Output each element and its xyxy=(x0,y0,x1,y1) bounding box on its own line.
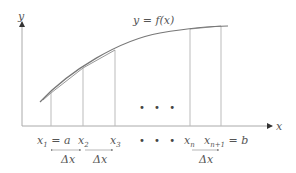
curve-f xyxy=(40,26,228,102)
point-label-x2: x2 xyxy=(78,135,89,149)
point-label-xn1: xn+1 = b xyxy=(204,135,248,149)
riemann-diagram: y x y = f(x) x1 = a x2 x3 xn xn+1 = b Δx… xyxy=(0,0,296,173)
ellipsis-axis: • • • xyxy=(139,136,178,146)
delta-label-n: Δx xyxy=(199,154,213,165)
delta-label-1: Δx xyxy=(61,154,75,165)
point-label-x3: x3 xyxy=(110,135,121,149)
x-axis-label: x xyxy=(276,121,282,132)
y-axis-label: y xyxy=(18,11,24,22)
delta-label-2: Δx xyxy=(93,154,107,165)
curve-label: y = f(x) xyxy=(133,15,174,26)
point-label-xn: xn xyxy=(184,135,195,149)
trapezoid-chords xyxy=(43,50,115,100)
point-label-x1: x1 = a xyxy=(37,135,70,149)
ellipsis-graph: • • • xyxy=(139,103,178,113)
